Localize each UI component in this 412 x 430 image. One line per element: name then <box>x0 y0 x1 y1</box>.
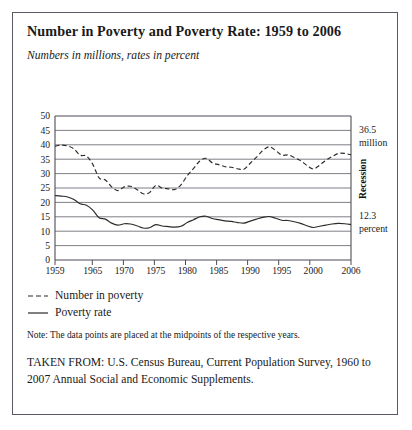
y-tick-label: 30 <box>40 168 50 179</box>
figure-container: Number in Poverty and Poverty Rate: 1959… <box>12 12 398 415</box>
y-tick-label: 45 <box>40 125 50 136</box>
x-tick-label: 1965 <box>83 265 102 276</box>
y-axis-tick-labels: 05101520253035404550 <box>40 110 50 265</box>
x-tick-label: 1980 <box>178 265 197 276</box>
annotation-rate-value: 12.3 <box>359 210 376 221</box>
chart-plot-area: 05101520253035404550 1959196519701975198… <box>13 91 399 281</box>
figure-source: TAKEN FROM: U.S. Census Bureau, Current … <box>27 355 379 389</box>
legend-item-number-in-poverty: Number in poverty <box>27 287 387 304</box>
solid-line-marker <box>27 308 49 318</box>
y-tick-label: 0 <box>45 254 50 265</box>
y-tick-label: 10 <box>40 226 50 237</box>
legend-label-poverty-rate: Poverty rate <box>55 306 111 319</box>
x-tick-label: 1959 <box>45 265 64 276</box>
x-tick-label: 1990 <box>241 265 260 276</box>
y-tick-label: 25 <box>40 182 50 193</box>
figure-note: Note: The data points are placed at the … <box>27 329 383 341</box>
y-tick-label: 40 <box>40 139 50 150</box>
legend-label-number-in-poverty: Number in poverty <box>55 289 143 302</box>
x-tick-label: 2000 <box>304 265 323 276</box>
annotation-rate-unit: percent <box>359 223 388 234</box>
y-tick-label: 20 <box>40 197 50 208</box>
legend-item-poverty-rate: Poverty rate <box>27 304 387 321</box>
y-tick-label: 15 <box>40 211 50 222</box>
y-tick-label: 50 <box>40 110 50 121</box>
dashed-line-marker <box>27 291 49 301</box>
y-tick-label: 35 <box>40 154 50 165</box>
x-tick-label: 1975 <box>146 265 165 276</box>
y-tick-label: 5 <box>45 240 50 251</box>
annotation-number-value: 36.5 <box>359 124 376 135</box>
annotation-number-unit: million <box>359 137 387 148</box>
gridlines-group <box>55 116 351 260</box>
series-poverty-rate-line <box>55 195 351 228</box>
line-chart-svg: 05101520253035404550 1959196519701975198… <box>13 91 399 281</box>
x-tick-label: 1985 <box>209 265 228 276</box>
figure-subtitle: Numbers in millions, rates in percent <box>27 49 199 62</box>
annotation-recession-label: Recession <box>357 158 368 199</box>
x-axis-tick-labels: 1959196519701975198019851990199520002006 <box>45 265 360 276</box>
x-tick-label: 2006 <box>341 265 360 276</box>
x-tick-label: 1970 <box>115 265 134 276</box>
chart-legend: Number in poverty Poverty rate <box>27 287 387 321</box>
series-number-in-poverty-line <box>55 145 351 194</box>
x-tick-label: 1995 <box>272 265 291 276</box>
page-title: Number in Poverty and Poverty Rate: 1959… <box>27 23 341 40</box>
